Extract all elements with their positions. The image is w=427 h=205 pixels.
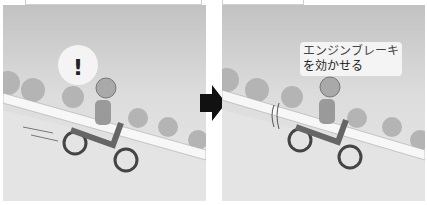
caption-line-1: エンジンブレーキ [303,44,399,59]
svg-text:!: ! [73,55,83,80]
panel-after: エンジンブレーキ を効かせる [222,5,425,201]
panel-before: ! [3,5,206,201]
caption-line-2: を効かせる [303,59,399,74]
engine-brake-scene-illustration [222,5,425,201]
downhill-scene-illustration: ! [3,5,206,201]
caption-engine-brake: エンジンブレーキ を効かせる [300,42,402,76]
